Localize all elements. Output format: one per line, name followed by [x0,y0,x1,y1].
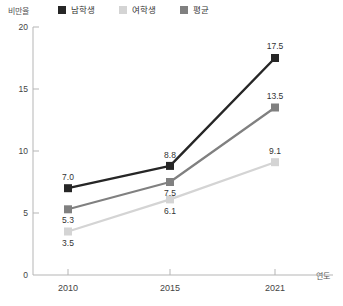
data-point-male-2010[interactable] [64,184,72,192]
data-point-female-2010[interactable] [64,228,72,236]
value-label-male-2010: 7.0 [53,172,83,182]
value-label-male-2021: 17.5 [260,41,290,51]
data-point-average-2010[interactable] [64,205,72,213]
data-point-male-2021[interactable] [271,54,279,62]
value-label-male-2015: 8.8 [155,150,185,160]
data-point-average-2021[interactable] [271,104,279,112]
data-point-male-2015[interactable] [166,162,174,170]
data-point-female-2021[interactable] [271,158,279,166]
value-label-average-2021: 13.5 [260,91,290,101]
value-label-average-2015: 7.5 [155,188,185,198]
data-point-average-2015[interactable] [166,178,174,186]
value-label-female-2021: 9.1 [260,146,290,156]
value-label-female-2015: 6.1 [155,206,185,216]
chart-container: 남학생 여학생 평균 비만율 연도 20 15 10 5 0 2010 2015… [0,0,343,306]
value-label-average-2010: 5.3 [53,215,83,225]
value-label-female-2010: 3.5 [53,238,83,248]
